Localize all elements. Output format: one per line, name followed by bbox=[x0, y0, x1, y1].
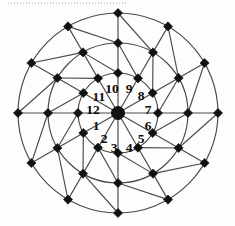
chord-r0-180 bbox=[57, 113, 78, 148]
chord-r1-240 bbox=[83, 174, 118, 213]
spoke-300deg bbox=[118, 113, 168, 200]
sector-label-1: 1 bbox=[93, 119, 100, 133]
node-marker bbox=[148, 88, 157, 97]
node-marker bbox=[63, 195, 72, 204]
sector-label-9: 9 bbox=[126, 82, 133, 96]
node-marker bbox=[200, 158, 209, 167]
node-marker bbox=[133, 74, 142, 83]
node-marker bbox=[27, 58, 36, 67]
sector-label-3: 3 bbox=[111, 141, 118, 155]
sector-label-4: 4 bbox=[126, 141, 133, 155]
center-hub bbox=[112, 107, 125, 120]
node-marker bbox=[93, 74, 102, 83]
node-marker bbox=[163, 22, 172, 31]
node-marker bbox=[113, 178, 122, 187]
chord-r0-0 bbox=[158, 78, 179, 113]
node-marker bbox=[43, 108, 52, 117]
sector-label-6: 6 bbox=[145, 119, 152, 133]
node-marker bbox=[200, 58, 209, 67]
chord-r1-330 bbox=[179, 113, 218, 148]
sector-label-5: 5 bbox=[138, 132, 145, 146]
node-marker bbox=[163, 195, 172, 204]
node-marker bbox=[174, 73, 183, 82]
node-marker bbox=[73, 108, 82, 117]
sector-label-8: 8 bbox=[138, 89, 145, 103]
chord-r0-90 bbox=[83, 52, 118, 73]
sector-label-10: 10 bbox=[105, 82, 119, 96]
spoke-330deg bbox=[118, 113, 205, 163]
sector-label-2: 2 bbox=[101, 132, 108, 146]
chord-r0-270 bbox=[118, 153, 153, 174]
node-marker bbox=[183, 108, 192, 117]
chord-r1-150 bbox=[18, 78, 57, 113]
node-marker bbox=[79, 88, 88, 97]
node-marker bbox=[113, 38, 122, 47]
sector-label-7: 7 bbox=[145, 103, 152, 117]
node-marker bbox=[79, 128, 88, 137]
polar-web-figure: 123456789101112 bbox=[0, 0, 235, 226]
node-marker bbox=[53, 143, 62, 152]
center-hub-marker bbox=[112, 107, 125, 120]
node-marker bbox=[113, 68, 122, 77]
node-marker bbox=[78, 48, 87, 57]
node-marker bbox=[27, 158, 36, 167]
node-marker bbox=[63, 22, 72, 31]
chord-r1-60 bbox=[118, 13, 153, 52]
node-marker bbox=[148, 169, 157, 178]
polar-web-graphic bbox=[0, 0, 235, 226]
node-marker bbox=[153, 108, 162, 117]
sector-label-12: 12 bbox=[86, 103, 100, 117]
